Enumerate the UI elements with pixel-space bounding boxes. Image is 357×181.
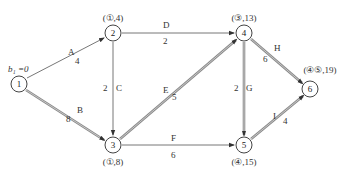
edge-g-weight: 2 (234, 83, 239, 93)
node-6-label: 6 (308, 84, 313, 94)
node-5-label: 5 (242, 140, 247, 150)
edge-h-weight: 6 (263, 54, 268, 64)
edge-e-name: E (163, 85, 169, 95)
node-3-mark: (①,8) (103, 157, 124, 167)
network-diagram: 1 2 3 4 5 6 b₁ =0 (①,4) (①,8) (③,13) (④,… (0, 0, 357, 181)
edge-a-name: A (68, 47, 75, 57)
edge-e-weight: 5 (172, 92, 177, 102)
edge-c-weight: 2 (103, 83, 108, 93)
edge-d-name: D (163, 20, 170, 30)
edge-d-weight: 2 (163, 36, 168, 46)
edge-a (27, 38, 104, 78)
node-1-label: 1 (17, 79, 22, 89)
edge-b-weight: 8 (66, 114, 71, 124)
node-4-mark: (③,13) (231, 13, 256, 23)
edge-i-weight: 4 (283, 116, 288, 126)
node-5-mark: (④,15) (231, 157, 256, 167)
edge-e (120, 40, 237, 140)
node-1: 1 (11, 76, 27, 92)
node-4: 4 (236, 25, 252, 41)
node-4-label: 4 (242, 28, 247, 38)
edge-i-name: I (273, 111, 276, 121)
edge-c-name: C (116, 83, 122, 93)
node-6-mark: (④⑤,19) (303, 65, 336, 75)
node-3: 3 (105, 137, 121, 153)
node-3-label: 3 (111, 140, 116, 150)
start-label: b₁ =0 (8, 64, 29, 74)
node-2: 2 (105, 25, 121, 41)
node-5: 5 (236, 137, 252, 153)
node-2-label: 2 (111, 28, 116, 38)
edge-i (251, 96, 304, 140)
edge-h-name: H (274, 43, 281, 53)
edge-f-weight: 6 (171, 150, 176, 160)
edge-f-name: F (171, 133, 176, 143)
node-2-mark: (①,4) (103, 13, 124, 23)
edge-b-name: B (77, 105, 83, 115)
edge-g-name: G (246, 83, 253, 93)
node-6: 6 (302, 81, 318, 97)
edge-a-weight: 4 (75, 56, 80, 66)
